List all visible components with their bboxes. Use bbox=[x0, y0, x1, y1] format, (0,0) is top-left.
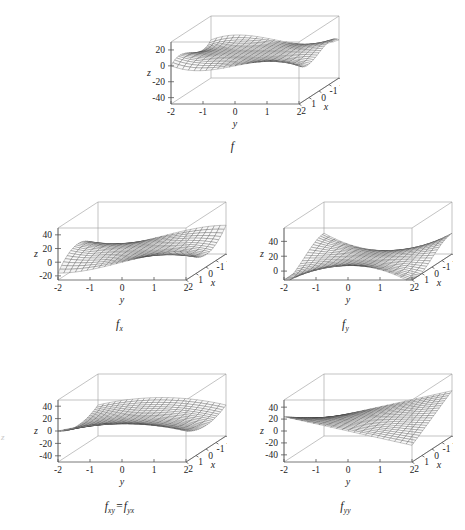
svg-text:x: x bbox=[210, 459, 216, 470]
svg-text:1: 1 bbox=[198, 457, 203, 467]
surface-plot-fy: 40200z-2-1012y210-1-2x bbox=[238, 188, 453, 318]
svg-text:0: 0 bbox=[346, 283, 351, 293]
svg-text:0: 0 bbox=[273, 266, 278, 276]
figure-partial-derivatives: z 200-20-40z-2-1012y210-1-2x f 40200-20z… bbox=[0, 0, 465, 530]
svg-text:y: y bbox=[119, 476, 125, 487]
plot-cell-fx: 40200-20z-2-1012y210-1-2x bbox=[12, 188, 227, 318]
svg-text:-40: -40 bbox=[265, 450, 278, 460]
svg-text:-40: -40 bbox=[39, 451, 52, 461]
surface-plot-fxy: 40200-20-40z-2-1012y210-1-2x bbox=[12, 360, 227, 500]
svg-text:-2: -2 bbox=[54, 283, 62, 293]
svg-text:0: 0 bbox=[346, 465, 351, 475]
svg-text:-1: -1 bbox=[217, 262, 225, 272]
svg-text:2: 2 bbox=[188, 464, 193, 474]
svg-text:-1: -1 bbox=[217, 444, 225, 454]
svg-text:z: z bbox=[33, 425, 38, 436]
svg-text:-1: -1 bbox=[330, 86, 338, 96]
svg-text:-1: -1 bbox=[86, 283, 94, 293]
svg-text:-20: -20 bbox=[39, 271, 52, 281]
svg-text:0: 0 bbox=[160, 61, 165, 71]
caption-fyy: fyy bbox=[238, 500, 453, 515]
svg-text:40: 40 bbox=[269, 237, 279, 247]
svg-text:x: x bbox=[436, 459, 442, 470]
svg-text:-2: -2 bbox=[280, 465, 288, 475]
svg-text:-40: -40 bbox=[152, 93, 165, 103]
svg-text:-2: -2 bbox=[54, 465, 62, 475]
svg-text:y: y bbox=[345, 476, 351, 487]
plot-cell-fyy: 40200-20-40z-2-1012y210-1-2x bbox=[238, 360, 453, 500]
svg-text:1: 1 bbox=[198, 275, 203, 285]
svg-text:y: y bbox=[119, 294, 125, 305]
svg-text:-2: -2 bbox=[167, 107, 175, 117]
svg-text:2: 2 bbox=[301, 106, 306, 116]
surface-plot-fyy: 40200-20-40z-2-1012y210-1-2x bbox=[238, 360, 453, 500]
svg-text:x: x bbox=[323, 101, 329, 112]
caption-fx: fx bbox=[12, 318, 227, 333]
svg-text:1: 1 bbox=[378, 465, 383, 475]
svg-text:20: 20 bbox=[269, 414, 279, 424]
plot-cell-fy: 40200z-2-1012y210-1-2x bbox=[238, 188, 453, 318]
caption-f: f bbox=[125, 140, 340, 152]
svg-text:1: 1 bbox=[152, 283, 157, 293]
surface-plot-fx: 40200-20z-2-1012y210-1-2x bbox=[12, 188, 227, 318]
plot-cell-fxy: 40200-20-40z-2-1012y210-1-2x bbox=[12, 360, 227, 500]
svg-text:z: z bbox=[259, 425, 264, 436]
svg-text:40: 40 bbox=[43, 402, 53, 412]
svg-text:2: 2 bbox=[414, 282, 419, 292]
svg-text:-20: -20 bbox=[265, 438, 278, 448]
page-edge-artifact: z bbox=[1, 432, 5, 442]
surface-plot-f: 200-20-40z-2-1012y210-1-2x bbox=[125, 2, 340, 142]
svg-text:z: z bbox=[146, 67, 151, 78]
svg-text:-1: -1 bbox=[312, 465, 320, 475]
svg-text:1: 1 bbox=[311, 99, 316, 109]
svg-text:20: 20 bbox=[156, 45, 166, 55]
svg-text:1: 1 bbox=[152, 465, 157, 475]
svg-text:0: 0 bbox=[233, 107, 238, 117]
svg-text:-1: -1 bbox=[312, 283, 320, 293]
svg-text:40: 40 bbox=[269, 403, 279, 413]
svg-text:40: 40 bbox=[43, 230, 53, 240]
svg-text:0: 0 bbox=[120, 283, 125, 293]
svg-text:0: 0 bbox=[273, 426, 278, 436]
svg-text:1: 1 bbox=[424, 275, 429, 285]
svg-text:-1: -1 bbox=[86, 465, 94, 475]
svg-text:x: x bbox=[210, 277, 216, 288]
svg-text:-2: -2 bbox=[280, 283, 288, 293]
plot-cell-f: 200-20-40z-2-1012y210-1-2x bbox=[125, 2, 340, 142]
svg-text:y: y bbox=[345, 294, 351, 305]
svg-text:20: 20 bbox=[43, 414, 53, 424]
svg-text:2: 2 bbox=[414, 464, 419, 474]
svg-text:1: 1 bbox=[378, 283, 383, 293]
svg-text:20: 20 bbox=[43, 244, 53, 254]
svg-text:0: 0 bbox=[120, 465, 125, 475]
svg-text:1: 1 bbox=[265, 107, 270, 117]
caption-fy: fy bbox=[238, 318, 453, 333]
svg-text:y: y bbox=[232, 118, 238, 129]
svg-text:0: 0 bbox=[47, 426, 52, 436]
svg-text:0: 0 bbox=[47, 258, 52, 268]
svg-text:1: 1 bbox=[424, 457, 429, 467]
svg-text:x: x bbox=[436, 277, 442, 288]
svg-text:-1: -1 bbox=[443, 444, 451, 454]
svg-text:-1: -1 bbox=[199, 107, 207, 117]
svg-text:z: z bbox=[259, 248, 264, 259]
svg-text:z: z bbox=[33, 248, 38, 259]
svg-text:2: 2 bbox=[188, 282, 193, 292]
svg-text:-1: -1 bbox=[443, 262, 451, 272]
svg-text:20: 20 bbox=[269, 252, 279, 262]
caption-fxy-fyx: fxy=fyx bbox=[12, 500, 227, 515]
svg-text:-20: -20 bbox=[152, 77, 165, 87]
svg-text:-20: -20 bbox=[39, 439, 52, 449]
